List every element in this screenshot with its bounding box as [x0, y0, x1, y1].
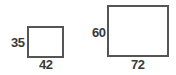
small-rectangle-width-label: 42 — [39, 58, 52, 71]
large-rectangle — [107, 5, 169, 57]
large-rectangle-width-label: 72 — [131, 58, 144, 71]
small-rectangle-height-label: 35 — [11, 36, 24, 49]
small-rectangle — [27, 26, 64, 58]
large-rectangle-height-label: 60 — [92, 26, 105, 39]
